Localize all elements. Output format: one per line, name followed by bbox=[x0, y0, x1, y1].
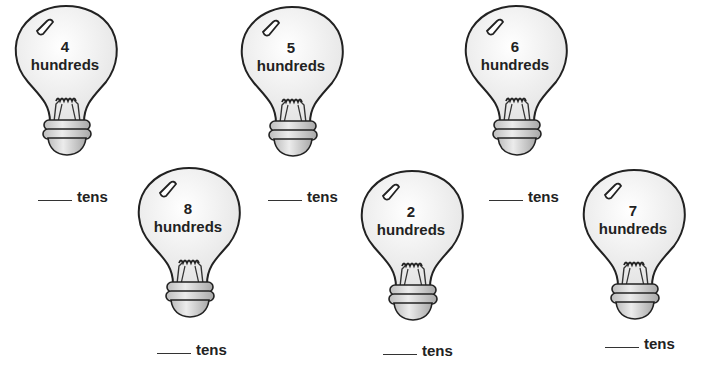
bulb-7-hundreds: 7 hundreds bbox=[578, 168, 688, 328]
bulb-number: 6 bbox=[460, 38, 570, 56]
lightbulb-icon bbox=[578, 168, 688, 328]
answer-blank[interactable] bbox=[605, 346, 639, 348]
bulb-number: 5 bbox=[236, 39, 346, 57]
lightbulb-icon bbox=[356, 169, 466, 329]
answer-field-4[interactable]: tens bbox=[157, 341, 227, 358]
bulb-5-hundreds: 5 hundreds bbox=[236, 5, 346, 165]
bulb-number: 2 bbox=[356, 203, 466, 221]
bulb-number: 7 bbox=[578, 202, 688, 220]
lightbulb-icon bbox=[10, 4, 120, 164]
bulb-unit: hundreds bbox=[460, 56, 570, 74]
answer-unit-label: tens bbox=[422, 342, 453, 359]
answer-blank[interactable] bbox=[383, 353, 417, 355]
answer-blank[interactable] bbox=[268, 199, 302, 201]
bulb-number: 4 bbox=[10, 38, 120, 56]
answer-unit-label: tens bbox=[77, 188, 108, 205]
bulb-2-hundreds: 2 hundreds bbox=[356, 169, 466, 329]
bulb-4-hundreds: 4 hundreds bbox=[10, 4, 120, 164]
bulb-unit: hundreds bbox=[236, 57, 346, 75]
answer-blank[interactable] bbox=[38, 199, 72, 201]
answer-field-1[interactable]: tens bbox=[38, 188, 108, 205]
answer-field-3[interactable]: tens bbox=[489, 188, 559, 205]
answer-unit-label: tens bbox=[196, 341, 227, 358]
answer-unit-label: tens bbox=[528, 188, 559, 205]
bulb-6-hundreds: 6 hundreds bbox=[460, 4, 570, 164]
answer-field-5[interactable]: tens bbox=[383, 342, 453, 359]
bulb-unit: hundreds bbox=[10, 56, 120, 74]
bulb-unit: hundreds bbox=[578, 220, 688, 238]
lightbulb-icon bbox=[133, 166, 243, 326]
answer-field-6[interactable]: tens bbox=[605, 335, 675, 352]
bulb-unit: hundreds bbox=[133, 218, 243, 236]
bulb-unit: hundreds bbox=[356, 221, 466, 239]
bulb-8-hundreds: 8 hundreds bbox=[133, 166, 243, 326]
lightbulb-icon bbox=[236, 5, 346, 165]
bulb-number: 8 bbox=[133, 200, 243, 218]
answer-unit-label: tens bbox=[307, 188, 338, 205]
answer-unit-label: tens bbox=[644, 335, 675, 352]
answer-field-2[interactable]: tens bbox=[268, 188, 338, 205]
lightbulb-icon bbox=[460, 4, 570, 164]
answer-blank[interactable] bbox=[157, 352, 191, 354]
answer-blank[interactable] bbox=[489, 199, 523, 201]
